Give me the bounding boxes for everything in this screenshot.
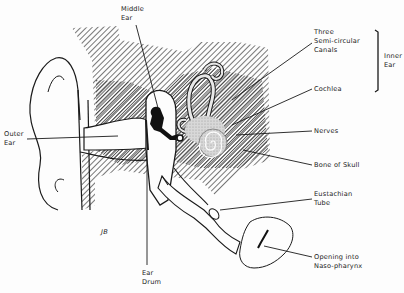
label-line: Outer bbox=[4, 130, 24, 139]
label-eustachian-tube: Eustachian Tube bbox=[314, 190, 352, 208]
label-line: Semi-circular bbox=[314, 37, 360, 46]
label-opening-naso-pharynx: Opening into Naso-pharynx bbox=[314, 253, 362, 271]
label-outer-ear: Outer Ear bbox=[4, 130, 24, 148]
label-line: Ear bbox=[121, 14, 144, 23]
label-line: Drum bbox=[142, 278, 161, 287]
label-middle-ear: Middle Ear bbox=[121, 5, 144, 23]
label-bone-of-skull: Bone of Skull bbox=[314, 161, 360, 170]
label-line: Canals bbox=[314, 46, 360, 55]
artist-signature: JB bbox=[101, 228, 108, 237]
label-line: Ear bbox=[142, 269, 161, 278]
label-line: Three bbox=[314, 28, 360, 37]
naso-pharynx bbox=[240, 217, 293, 268]
label-line: Tube bbox=[314, 199, 352, 208]
label-semicircular-canals: Three Semi-circular Canals bbox=[314, 28, 360, 55]
label-line: Eustachian bbox=[314, 190, 352, 199]
cochlea bbox=[199, 129, 227, 157]
label-nerves: Nerves bbox=[314, 127, 338, 136]
label-ear-drum: Ear Drum bbox=[142, 269, 161, 287]
label-cochlea: Cochlea bbox=[314, 85, 342, 94]
label-line: Inner bbox=[384, 52, 402, 61]
label-line: Ear bbox=[4, 139, 24, 148]
inner-ear-bracket bbox=[375, 30, 378, 92]
label-inner-ear: Inner Ear bbox=[384, 52, 402, 70]
ear-canal bbox=[84, 118, 148, 150]
label-line: Naso-pharynx bbox=[314, 262, 362, 271]
label-line: Opening into bbox=[314, 253, 362, 262]
label-line: Middle bbox=[121, 5, 144, 14]
label-line: Ear bbox=[384, 61, 402, 70]
eustachian-tube bbox=[158, 176, 240, 254]
